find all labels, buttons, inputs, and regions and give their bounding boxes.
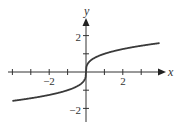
y-tick-label-2: 2 — [76, 31, 82, 43]
y-axis-arrow-icon — [83, 18, 90, 26]
x-tick-label-2: 2 — [120, 75, 126, 87]
cube-root-graph: x y −2 2 2 −2 — [0, 0, 184, 125]
y-axis-label: y — [83, 4, 90, 18]
x-tick-label-neg2: −2 — [43, 75, 55, 87]
x-axis-arrow-icon — [158, 69, 166, 76]
y-tick-label-neg2: −2 — [69, 104, 81, 116]
x-axis-label: x — [167, 65, 174, 79]
